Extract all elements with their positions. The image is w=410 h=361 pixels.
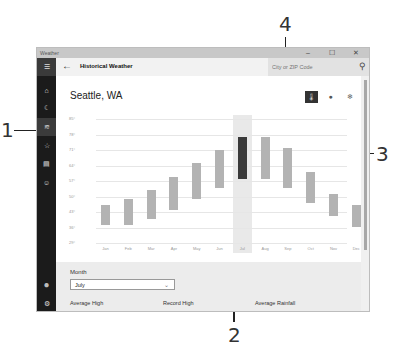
back-button[interactable]: ← (62, 60, 72, 71)
window-title: Weather (40, 50, 59, 56)
title-bar: Weather – ☐ ✕ (37, 48, 369, 58)
y-axis-label: 64° (69, 163, 75, 168)
x-axis-label-may[interactable]: May (187, 246, 207, 251)
y-axis-label: 29° (69, 240, 75, 245)
month-dropdown[interactable]: July ⌄ (70, 279, 175, 290)
y-axis-label: 57° (69, 178, 75, 183)
temperature-bar-mar[interactable] (147, 190, 156, 219)
temperature-bar-jul[interactable] (238, 137, 247, 179)
gridline (96, 228, 347, 229)
record-high-label: Record High (163, 300, 194, 306)
historical-weather-icon: ≋ (44, 123, 50, 131)
callout-number: 4 (279, 14, 292, 34)
navigation-pane: ☰ ⌂ ☾ ≋ ☆ ▤ ☺ ● ⚙ (37, 58, 56, 311)
search-icon[interactable]: ⚲ (359, 61, 366, 71)
callout-number: 1 (1, 120, 14, 140)
callout-number: 3 (376, 144, 389, 164)
temperature-bar-oct[interactable] (306, 172, 315, 203)
x-axis-label-jan[interactable]: Jan (96, 246, 116, 251)
gridline (96, 135, 347, 136)
y-axis-label: 71° (69, 147, 75, 152)
temperature-bar-nov[interactable] (329, 194, 338, 216)
x-axis-label-aug[interactable]: Aug (255, 246, 275, 251)
temperature-bar-sep[interactable] (283, 148, 292, 188)
sidebar-item-places[interactable]: ☆ (37, 138, 56, 154)
average-high-label: Average High (70, 300, 103, 306)
star-icon: ☆ (44, 142, 50, 150)
gridline (96, 243, 347, 244)
y-axis-label: 78° (69, 132, 75, 137)
x-axis-label-sep[interactable]: Sep (278, 246, 298, 251)
gear-icon: ⚙ (44, 300, 50, 308)
x-axis-label-feb[interactable]: Feb (118, 246, 138, 251)
month-label: Month (70, 269, 87, 275)
y-axis-label: 43° (69, 209, 75, 214)
details-panel: Month July ⌄ Average High Record High Av… (56, 262, 361, 311)
hamburger-icon: ☰ (44, 63, 50, 71)
temperature-bar-aug[interactable] (261, 137, 270, 179)
selected-month-highlight (233, 115, 252, 253)
close-button[interactable]: ✕ (347, 48, 365, 58)
sidebar-item-maps[interactable]: ☾ (37, 100, 56, 116)
x-axis-label-oct[interactable]: Oct (301, 246, 321, 251)
maximize-button[interactable]: ☐ (323, 48, 341, 58)
y-axis-label: 50° (69, 194, 75, 199)
gridline (96, 212, 347, 213)
maps-icon: ☾ (44, 104, 50, 112)
sidebar-item-historical-weather[interactable]: ≋ (37, 118, 56, 136)
x-axis-label-jul[interactable]: Jul (232, 246, 252, 251)
vertical-scrollbar[interactable] (361, 76, 369, 311)
smiley-icon: ☺ (43, 179, 50, 186)
home-icon: ⌂ (44, 87, 48, 94)
hamburger-menu-button[interactable]: ☰ (37, 58, 56, 76)
y-axis-label: 85° (69, 116, 75, 121)
sidebar-item-forecast[interactable]: ⌂ (37, 82, 56, 98)
x-axis-label-apr[interactable]: Apr (164, 246, 184, 251)
account-button[interactable]: ● (37, 276, 56, 292)
minimize-button[interactable]: – (299, 48, 317, 58)
sidebar-item-feedback[interactable]: ☺ (37, 174, 56, 190)
main-content: Seattle, WA 🌡 ● ❄ 85°78°71°64°57°50°43°3… (56, 76, 361, 311)
page-title: Historical Weather (80, 63, 133, 69)
temperature-bar-may[interactable] (192, 163, 201, 198)
news-icon: ▤ (43, 160, 50, 168)
app-header: ← Historical Weather ⚲ (56, 58, 369, 76)
average-rainfall-label: Average Rainfall (255, 300, 295, 306)
weather-window: Weather – ☐ ✕ ☰ ⌂ ☾ ≋ ☆ ▤ ☺ ● ⚙ ← Histor… (36, 47, 370, 312)
x-axis-label-jun[interactable]: Jun (210, 246, 230, 251)
y-axis-label: 36° (69, 225, 75, 230)
search-box[interactable]: ⚲ (268, 58, 370, 76)
x-axis-label-mar[interactable]: Mar (141, 246, 161, 251)
gridline (96, 119, 347, 120)
sidebar-item-news[interactable]: ▤ (37, 156, 56, 172)
temperature-bar-apr[interactable] (169, 177, 178, 210)
avatar: ● (43, 279, 49, 290)
temperature-chart: 85°78°71°64°57°50°43°36°29°JanFebMarAprM… (56, 76, 361, 256)
temperature-bar-jun[interactable] (215, 150, 224, 188)
temperature-bar-feb[interactable] (124, 199, 133, 226)
month-value: July (75, 282, 85, 288)
x-axis-label-nov[interactable]: Nov (324, 246, 344, 251)
chevron-down-icon: ⌄ (164, 281, 169, 288)
search-input[interactable] (272, 62, 352, 72)
temperature-bar-jan[interactable] (101, 205, 110, 225)
settings-button[interactable]: ⚙ (37, 296, 56, 312)
scrollbar-thumb[interactable] (364, 80, 367, 250)
callout-number: 2 (228, 325, 241, 345)
temperature-bar-dec[interactable] (352, 205, 361, 227)
